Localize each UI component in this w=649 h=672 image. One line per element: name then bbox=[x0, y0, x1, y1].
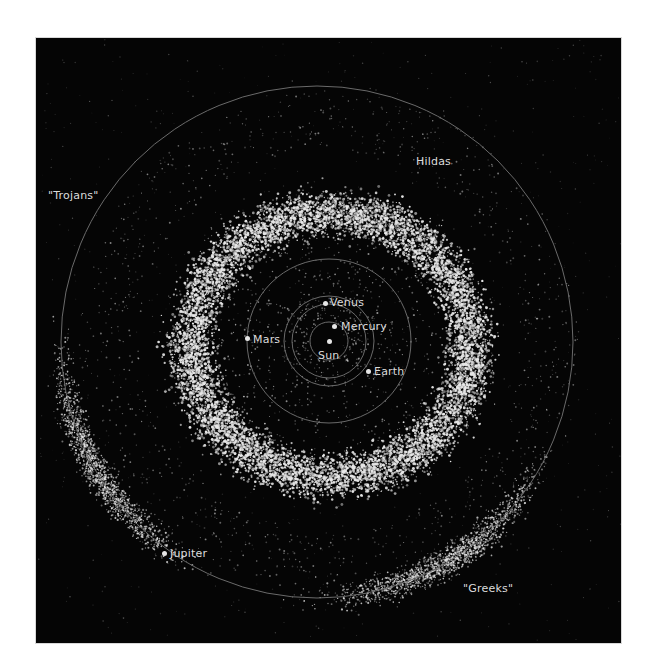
trojans-label: "Trojans" bbox=[48, 190, 99, 201]
solar-system-diagram bbox=[0, 0, 649, 672]
greeks-label: "Greeks" bbox=[463, 583, 513, 594]
mercury-label: Mercury bbox=[341, 321, 387, 332]
earth-marker bbox=[366, 369, 371, 374]
sun-label: Sun bbox=[318, 350, 340, 361]
earth-label: Earth bbox=[374, 366, 405, 377]
jupiter-marker bbox=[162, 551, 167, 556]
mars-marker bbox=[245, 336, 250, 341]
mercury-marker bbox=[332, 324, 337, 329]
venus-marker bbox=[323, 301, 328, 306]
sun-marker bbox=[327, 339, 332, 344]
mars-label: Mars bbox=[253, 334, 280, 345]
venus-label: Venus bbox=[330, 297, 364, 308]
jupiter-label: Jupiter bbox=[170, 548, 207, 559]
hildas-label: Hildas bbox=[416, 156, 451, 167]
